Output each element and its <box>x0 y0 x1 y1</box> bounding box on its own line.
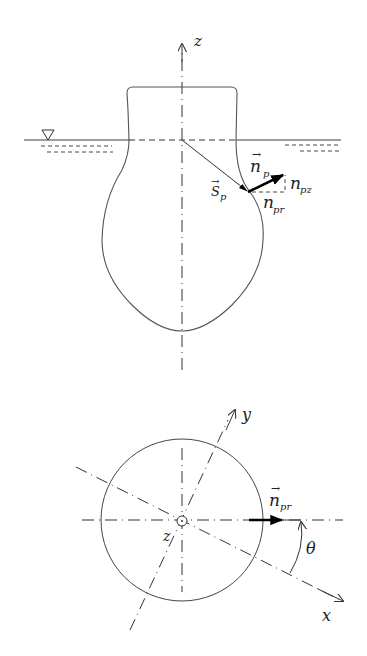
normal-r-component-label: n pr <box>263 192 285 215</box>
svg-text:pr: pr <box>280 501 292 512</box>
x-axis-line <box>76 467 340 600</box>
top-view: x y z n pr → θ <box>76 405 343 630</box>
normal-z-component-label: n pz <box>290 173 312 195</box>
water-level-icon <box>42 130 54 140</box>
svg-text:p: p <box>263 168 270 179</box>
x-axis-arrow-icon <box>318 589 343 601</box>
z-axis-dot <box>181 520 183 522</box>
side-view: z S p → n p → n pz <box>24 32 341 370</box>
svg-text:→: → <box>271 482 280 495</box>
svg-text:→: → <box>211 176 220 187</box>
floating-body-diagram: z S p → n p → n pz <box>0 0 367 656</box>
radial-normal-label: n pr → <box>269 482 292 512</box>
svg-text:pr: pr <box>273 204 285 215</box>
position-vector-label: S p → <box>211 176 227 202</box>
body-outline <box>102 87 263 331</box>
svg-text:→: → <box>252 148 261 161</box>
svg-text:pz: pz <box>300 184 312 195</box>
theta-label: θ <box>306 539 316 558</box>
y-axis-arrow-icon <box>226 410 235 430</box>
normal-vector-label: n p → <box>250 148 270 179</box>
y-axis-label: y <box>241 405 252 424</box>
x-axis-label: x <box>322 606 331 625</box>
svg-text:p: p <box>220 191 227 202</box>
z-axis-label: z <box>193 32 202 50</box>
theta-angle-arc <box>290 522 302 573</box>
z-axis-label-top: z <box>162 528 171 544</box>
